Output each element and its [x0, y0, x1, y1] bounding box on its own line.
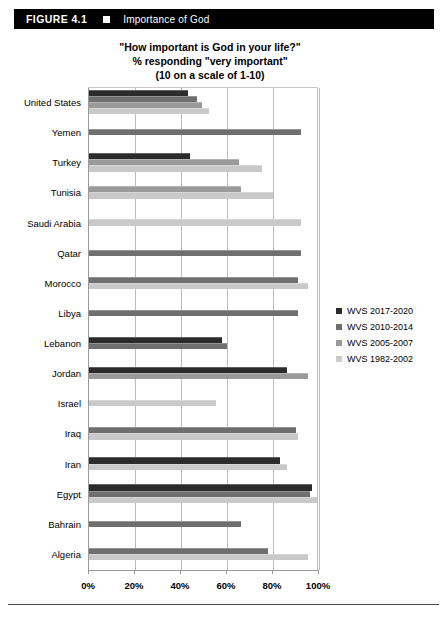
legend-item[interactable]: WVS 2017-2020 — [336, 303, 444, 319]
x-tick-label: 80% — [262, 580, 281, 591]
category-axis: United StatesYemenTurkeyTunisiaSaudi Ara… — [0, 88, 86, 570]
category-label-libya: Libya — [58, 309, 81, 319]
category-label-iran: Iran — [65, 460, 81, 470]
chart-title-line-3: (10 on a scale of 1-10) — [60, 68, 360, 82]
bar — [89, 373, 308, 379]
x-tick-mark — [226, 570, 227, 574]
bar — [89, 497, 317, 503]
bar — [89, 464, 287, 470]
plot-area — [88, 88, 318, 570]
x-tick-label: 40% — [170, 580, 189, 591]
category-label-saudi-arabia: Saudi Arabia — [27, 219, 81, 229]
x-axis-tick-labels: 0%20%40%60%80%100% — [88, 580, 319, 594]
legend-label: WVS 1982-2002 — [347, 354, 413, 364]
figure-title: Importance of God — [123, 14, 209, 25]
bar — [89, 343, 227, 349]
chart-title-line-2: % responding "very important" — [60, 54, 360, 68]
legend-label: WVS 2010-2014 — [347, 322, 413, 332]
category-label-morocco: Morocco — [45, 279, 81, 289]
bar — [89, 129, 301, 135]
bar — [89, 108, 209, 114]
gridline-100 — [319, 88, 320, 570]
x-tick-label: 20% — [124, 580, 143, 591]
category-label-qatar: Qatar — [57, 249, 81, 259]
legend-swatch-icon — [336, 324, 342, 330]
category-label-united-states: United States — [24, 98, 81, 108]
legend-label: WVS 2017-2020 — [347, 306, 413, 316]
x-tick-label: 0% — [81, 580, 95, 591]
category-label-bahrain: Bahrain — [48, 520, 81, 530]
figure-page: FIGURE 4.1 Importance of God "How import… — [0, 0, 447, 617]
legend-label: WVS 2005-2007 — [347, 338, 413, 348]
legend-swatch-icon — [336, 340, 342, 346]
figure-header-bar: FIGURE 4.1 Importance of God — [14, 9, 434, 29]
bar — [89, 554, 308, 560]
chart-legend: WVS 2017-2020WVS 2010-2014WVS 2005-2007W… — [336, 303, 444, 367]
category-label-turkey: Turkey — [52, 158, 81, 168]
category-label-tunisia: Tunisia — [51, 188, 81, 198]
legend-item[interactable]: WVS 2005-2007 — [336, 335, 444, 351]
category-label-lebanon: Lebanon — [44, 339, 81, 349]
chart-title: "How important is God in your life?" % r… — [60, 40, 360, 82]
bar — [89, 219, 301, 225]
figure-number: FIGURE 4.1 — [26, 13, 87, 25]
x-tick-label: 60% — [216, 580, 235, 591]
legend-item[interactable]: WVS 1982-2002 — [336, 351, 444, 367]
x-tick-mark — [180, 570, 181, 574]
bar — [89, 400, 216, 406]
bar — [89, 165, 262, 171]
category-label-iraq: Iraq — [65, 429, 81, 439]
category-label-jordan: Jordan — [52, 369, 81, 379]
bar — [89, 521, 241, 527]
x-tick-mark — [88, 570, 89, 574]
category-label-yemen: Yemen — [52, 128, 81, 138]
x-tick-label: 100% — [306, 580, 330, 591]
category-label-egypt: Egypt — [57, 490, 81, 500]
white-square-icon — [103, 16, 110, 23]
x-tick-mark — [318, 570, 319, 574]
legend-swatch-icon — [336, 308, 342, 314]
bar — [89, 250, 301, 256]
bar — [89, 310, 298, 316]
x-axis-line — [88, 570, 319, 571]
legend-item[interactable]: WVS 2010-2014 — [336, 319, 444, 335]
x-tick-mark — [134, 570, 135, 574]
chart-title-line-1: "How important is God in your life?" — [60, 40, 360, 54]
bottom-divider — [8, 604, 439, 605]
bar — [89, 433, 298, 439]
bar — [89, 192, 273, 198]
legend-swatch-icon — [336, 356, 342, 362]
category-label-algeria: Algeria — [51, 550, 81, 560]
x-tick-mark — [272, 570, 273, 574]
bar — [89, 283, 308, 289]
category-label-israel: Israel — [58, 399, 81, 409]
